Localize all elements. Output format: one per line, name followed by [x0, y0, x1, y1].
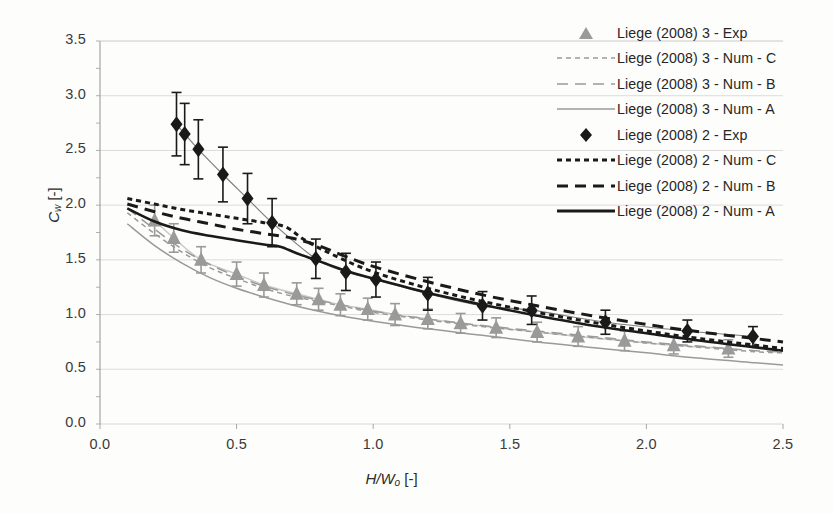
- x-tick-label: 1.0: [348, 436, 398, 452]
- y-tick-label: 2.0: [42, 195, 86, 211]
- legend-key-line-solid-black-icon: [555, 202, 617, 220]
- data-point-diamond: [192, 141, 204, 157]
- x-tick-label: 2.5: [758, 436, 808, 452]
- legend-item[interactable]: Liege (2008) 3 - Exp: [555, 20, 825, 46]
- legend-label: Liege (2008) 3 - Num - C: [617, 50, 776, 66]
- y-tick-label: 1.5: [42, 250, 86, 266]
- legend-item[interactable]: Liege (2008) 3 - Num - A: [555, 97, 825, 123]
- x-tick-label: 1.5: [485, 436, 535, 452]
- y-tick-label: 3.0: [42, 86, 86, 102]
- data-point-diamond: [242, 191, 254, 207]
- legend-key-line-dotted-black-icon: [555, 151, 617, 169]
- y-tick-label: 0.0: [42, 414, 86, 430]
- legend-label: Liege (2008) 3 - Num - A: [617, 101, 775, 117]
- legend-key-line-dashed-gray-icon: [555, 75, 617, 93]
- legend-item[interactable]: Liege (2008) 3 - Num - B: [555, 71, 825, 97]
- legend-item[interactable]: Liege (2008) 2 - Exp: [555, 122, 825, 148]
- legend-key-line-dashed-black-icon: [555, 177, 617, 195]
- legend-item[interactable]: Liege (2008) 2 - Num - C: [555, 148, 825, 174]
- legend-label: Liege (2008) 2 - Num - A: [617, 203, 775, 219]
- legend-label: Liege (2008) 3 - Exp: [617, 25, 748, 41]
- y-tick-label: 3.5: [42, 31, 86, 47]
- x-tick-label: 0.5: [212, 436, 262, 452]
- series-6: [127, 204, 783, 342]
- legend-label: Liege (2008) 2 - Num - C: [617, 152, 776, 168]
- y-tick-label: 1.0: [42, 305, 86, 321]
- legend-key-marker-triangle-gray-icon: [555, 24, 617, 42]
- x-axis-label: H/Wo [-]: [0, 470, 783, 488]
- data-point-triangle: [194, 252, 208, 266]
- legend-label: Liege (2008) 2 - Exp: [617, 127, 748, 143]
- x-tick-label: 2.0: [621, 436, 671, 452]
- x-axis-label-symbol: H/W: [365, 470, 394, 487]
- chart-figure: Cw [-] H/Wo [-] Liege (2008) 3 - ExpLieg…: [0, 0, 833, 514]
- legend-key-line-dotted-gray-icon: [555, 49, 617, 67]
- series-line-dashed: [127, 204, 783, 342]
- y-tick-label: 0.5: [42, 359, 86, 375]
- chart-legend: Liege (2008) 3 - ExpLiege (2008) 3 - Num…: [555, 20, 825, 224]
- data-point-diamond: [217, 167, 229, 183]
- y-tick-label: 2.5: [42, 140, 86, 156]
- y-axis-label-symbol: C: [45, 212, 62, 223]
- legend-key-marker-diamond-black-icon: [555, 126, 617, 144]
- legend-label: Liege (2008) 2 - Num - B: [617, 178, 776, 194]
- legend-item[interactable]: Liege (2008) 3 - Num - C: [555, 46, 825, 72]
- legend-item[interactable]: Liege (2008) 2 - Num - B: [555, 173, 825, 199]
- legend-key-line-solid-gray-icon: [555, 100, 617, 118]
- legend-label: Liege (2008) 3 - Num - B: [617, 76, 776, 92]
- x-axis-label-unit: [-]: [400, 470, 418, 487]
- x-tick-label: 0.0: [75, 436, 125, 452]
- legend-item[interactable]: Liege (2008) 2 - Num - A: [555, 199, 825, 225]
- data-point-triangle: [167, 230, 181, 244]
